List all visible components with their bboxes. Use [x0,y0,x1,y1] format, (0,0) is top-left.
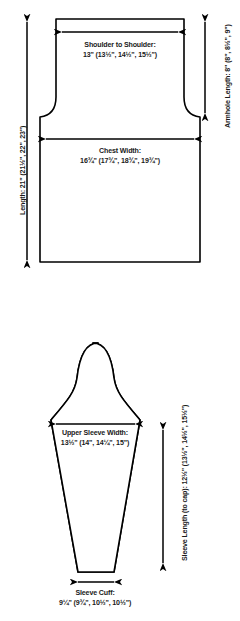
sleeve-length-label: Sleeve Length (to cap): 12½" (13½", 14½"… [181,405,191,561]
shoulder-to-shoulder-label: Shoulder to Shoulder: 13" (13½", 14½", 1… [40,41,200,60]
sleeve-length-label-text: Sleeve Length (to cap): 12½" (13½", 14½"… [181,405,189,561]
chest-width-label: Chest Width: 16¾" (17¾", 18¾", 19¾") [40,147,200,166]
chest-width-label-values: 16¾" (17¾", 18¾", 19¾") [40,157,200,167]
upper-sleeve-width-label: Upper Sleeve Width: 13½" (14", 14¼", 15"… [20,429,170,448]
sleeve-piece-outline [51,343,140,572]
sleeve-cuff-label-values: 9¼" (9¾", 10½", 10½") [20,599,170,609]
upper-sleeve-width-label-values: 13½" (14", 14¼", 15") [20,439,170,449]
armhole-length-label: Armhole Length: 8" (8", 8½", 9") [224,24,234,128]
length-label: Length: 21" (21½", 22", 23") [19,126,29,215]
sleeve-cuff-label: Sleeve Cuff: 9¼" (9¾", 10½", 10½") [20,589,170,608]
shoulder-to-shoulder-label-values: 13" (13½", 14½", 15½") [40,51,200,61]
sleeve-cuff-label-name: Sleeve Cuff: [20,589,170,599]
chest-width-label-name: Chest Width: [40,147,200,157]
armhole-length-label-text: Armhole Length: 8" (8", 8½", 9") [224,24,232,128]
upper-sleeve-width-label-name: Upper Sleeve Width: [20,429,170,439]
length-label-text: Length: 21" (21½", 22", 23") [19,126,27,215]
schematic-svg [0,0,240,621]
shoulder-to-shoulder-label-name: Shoulder to Shoulder: [40,41,200,51]
schematic-diagram: Shoulder to Shoulder: 13" (13½", 14½", 1… [0,0,240,621]
